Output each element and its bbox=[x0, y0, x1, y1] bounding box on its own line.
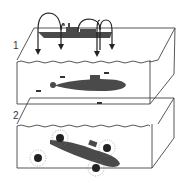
depth-charge-diagram bbox=[0, 0, 184, 183]
submarine-2 bbox=[50, 140, 120, 167]
panel-1-water-block bbox=[17, 28, 175, 104]
panel-2-label: 2 bbox=[13, 111, 19, 121]
arrowheads bbox=[35, 44, 115, 57]
panel-1-label: 1 bbox=[13, 41, 19, 51]
explosion bbox=[30, 150, 46, 166]
